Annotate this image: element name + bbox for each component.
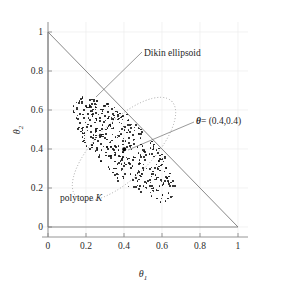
scatter-point (169, 173, 171, 175)
scatter-point (79, 122, 81, 124)
scatter-point (151, 153, 153, 155)
x-axis-title: θ1 (139, 268, 147, 282)
scatter-point (89, 119, 91, 121)
scatter-point (135, 186, 137, 188)
scatter-point (140, 176, 142, 178)
scatter-point (143, 156, 145, 158)
scatter-point (164, 180, 166, 182)
scatter-point (117, 137, 119, 139)
scatter-point (169, 185, 171, 187)
scatter-point (146, 188, 148, 190)
xtick-label-0.4: 0.4 (118, 241, 130, 251)
scatter-point (170, 182, 172, 184)
scatter-point (93, 142, 95, 144)
scatter-point (91, 110, 93, 112)
scatter-point (99, 117, 101, 119)
scatter-point (95, 132, 97, 134)
scatter-point (128, 142, 130, 144)
scatter-point (122, 144, 124, 146)
scatter-point (121, 123, 123, 125)
scatter-point (82, 136, 84, 138)
scatter-point (105, 155, 107, 157)
scatter-point (111, 140, 113, 142)
scatter-point (115, 136, 117, 138)
scatter-point (140, 137, 142, 139)
scatter-point (129, 131, 131, 133)
scatter-point (76, 109, 78, 111)
scatter-point (156, 164, 158, 166)
scatter-point (95, 112, 97, 114)
scatter-point (113, 115, 115, 117)
scatter-point (130, 167, 132, 169)
scatter-point (128, 137, 130, 139)
ytick-label-0: 0 (16, 222, 43, 232)
scatter-point (83, 117, 85, 119)
scatter-point (86, 145, 88, 147)
scatter-point (144, 181, 146, 183)
scatter-point (151, 176, 153, 178)
scatter-point (91, 103, 93, 105)
scatter-point (95, 130, 97, 132)
scatter-point (102, 110, 104, 112)
scatter-point (77, 128, 79, 130)
scatter-point (164, 157, 166, 159)
scatter-point (140, 144, 142, 146)
scatter-point (112, 122, 114, 124)
scatter-point (151, 195, 153, 197)
theta-center-label: θ= (0.4,0.4) (196, 116, 241, 126)
scatter-point (103, 121, 105, 123)
scatter-point (150, 142, 152, 144)
scatter-point (84, 132, 86, 134)
scatter-point (82, 97, 84, 99)
scatter-point (73, 105, 75, 107)
scatter-point (130, 147, 132, 149)
scatter-point (83, 109, 85, 111)
scatter-point (140, 191, 142, 193)
scatter-point (92, 115, 94, 117)
xtick-label-1: 1 (236, 241, 241, 251)
scatter-point (112, 172, 114, 174)
scatter-point (157, 190, 159, 192)
scatter-point (118, 155, 120, 157)
scatter-point (134, 157, 136, 159)
scatter-point (166, 178, 168, 180)
scatter-point (131, 124, 133, 126)
scatter-point (117, 119, 119, 121)
scatter-point (112, 128, 114, 130)
scatter-point (132, 159, 134, 161)
scatter-point (109, 168, 111, 170)
scatter-point (84, 135, 86, 137)
scatter-point (118, 162, 120, 164)
scatter-point (158, 166, 160, 168)
scatter-point (135, 174, 137, 176)
scatter-point (85, 122, 87, 124)
scatter-point (155, 174, 157, 176)
xtick-label-0.2: 0.2 (80, 241, 92, 251)
scatter-point (135, 177, 137, 179)
scatter-point (155, 179, 157, 181)
scatter-point (144, 149, 146, 151)
x-axis-title-subscript: 1 (144, 274, 148, 282)
scatter-point (111, 108, 113, 110)
scatter-point (159, 170, 161, 172)
scatter-point (113, 118, 115, 120)
theta-center-marker (122, 147, 126, 151)
xtick-label-0.8: 0.8 (194, 241, 206, 251)
polytope-word: polytope (60, 193, 93, 203)
dikin-ellipsoid-label: Dikin ellipsoid (144, 48, 201, 58)
scatter-point (114, 145, 116, 147)
scatter-point (79, 113, 81, 115)
scatter-point (100, 161, 102, 163)
scatter-point (172, 185, 174, 187)
ytick-label-0.6: 0.6 (16, 105, 43, 115)
scatter-point (123, 138, 125, 140)
scatter-point (132, 179, 134, 181)
scatter-point (118, 174, 120, 176)
scatter-point (161, 198, 163, 200)
scatter-point (153, 156, 155, 158)
scatter-point (114, 107, 116, 109)
scatter-point (90, 136, 92, 138)
scatter-point (132, 165, 134, 167)
scatter-point (151, 141, 153, 143)
scatter-point (100, 143, 102, 145)
